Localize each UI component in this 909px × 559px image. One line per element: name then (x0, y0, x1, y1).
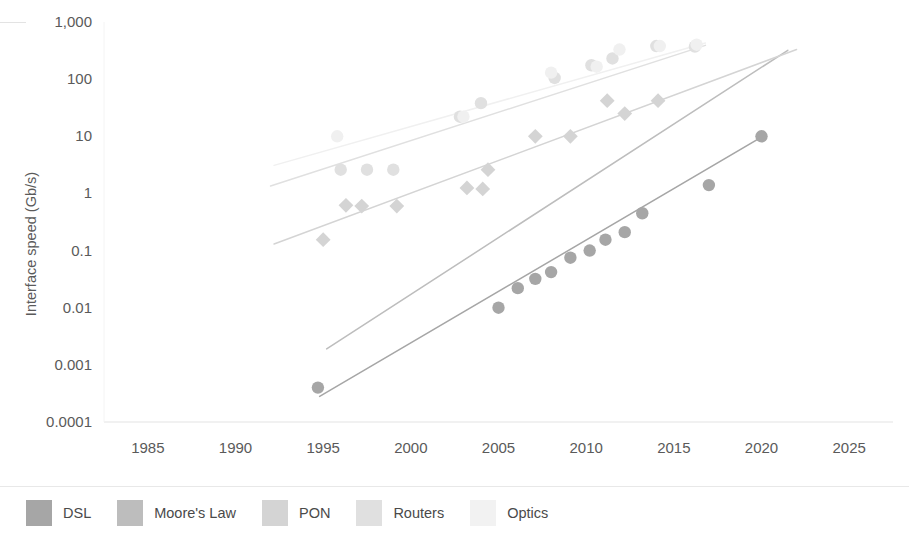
legend-label: PON (299, 505, 330, 521)
data-point (512, 282, 524, 294)
legend-swatch-icon (26, 500, 52, 526)
legend-label: DSL (63, 505, 91, 521)
data-point (475, 182, 490, 197)
series-dsl (312, 130, 768, 394)
legend-item-dsl[interactable]: DSL (26, 500, 91, 526)
legend-label: Optics (507, 505, 548, 521)
data-point (335, 164, 347, 176)
data-point (339, 198, 354, 213)
data-point (619, 226, 631, 238)
data-point (312, 381, 324, 393)
data-point (387, 164, 399, 176)
data-point (529, 273, 541, 285)
legend-item-moore-s-law[interactable]: Moore's Law (117, 500, 236, 526)
data-point (460, 180, 475, 195)
data-point (545, 66, 557, 78)
data-point (654, 40, 666, 52)
legend-label: Moore's Law (154, 505, 236, 521)
data-point (599, 233, 611, 245)
trendline-moore-s-law (327, 50, 788, 349)
legend-swatch-icon (356, 500, 382, 526)
chart-legend: DSLMoore's LawPONRoutersOptics (26, 500, 574, 526)
data-point (703, 179, 715, 191)
plot-area (0, 0, 909, 559)
series-optics (331, 39, 703, 143)
data-point (545, 266, 557, 278)
data-point (690, 39, 702, 51)
data-point (492, 302, 504, 314)
legend-item-optics[interactable]: Optics (470, 500, 548, 526)
data-point (583, 244, 595, 256)
data-point (457, 111, 469, 123)
data-point (636, 207, 648, 219)
legend-swatch-icon (117, 500, 143, 526)
legend-swatch-icon (262, 500, 288, 526)
trendline-dsl (320, 135, 765, 396)
data-point (564, 252, 576, 264)
data-point (651, 93, 666, 108)
data-point (475, 97, 487, 109)
data-point (316, 232, 331, 247)
data-point (354, 199, 369, 214)
data-point (331, 130, 343, 142)
data-point (755, 130, 767, 142)
chart-container: Interface speed (Gb/s) 1,0001001010.10.0… (0, 0, 909, 559)
legend-swatch-icon (470, 500, 496, 526)
data-point (617, 106, 632, 121)
legend-item-pon[interactable]: PON (262, 500, 330, 526)
data-point (481, 162, 496, 177)
legend-divider (0, 486, 909, 487)
trendline-optics (274, 43, 705, 165)
data-point (613, 43, 625, 55)
data-point (528, 129, 543, 144)
legend-item-routers[interactable]: Routers (356, 500, 444, 526)
data-point (600, 93, 615, 108)
trendline-pon (274, 50, 796, 245)
data-point (590, 61, 602, 73)
data-point (361, 164, 373, 176)
legend-label: Routers (393, 505, 444, 521)
